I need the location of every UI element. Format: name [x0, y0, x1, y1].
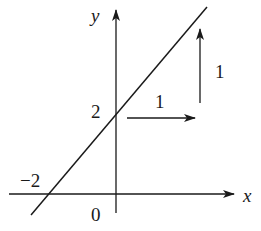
x-axis-label: x: [242, 185, 252, 206]
y-axis-label: y: [89, 5, 100, 26]
y-intercept-label: 2: [91, 101, 101, 122]
rise-label: 1: [215, 61, 225, 82]
x-intercept-label: −2: [20, 170, 40, 191]
graph-line: [31, 7, 207, 215]
origin-label: 0: [91, 204, 101, 225]
run-label: 1: [155, 91, 165, 112]
line-graph-diagram: y x 0 2 −2 1 1: [0, 0, 261, 231]
